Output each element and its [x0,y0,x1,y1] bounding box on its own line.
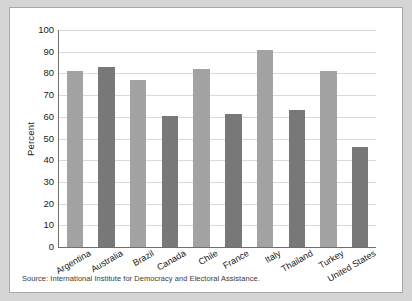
figure-outer-mat: Percent 0102030405060708090100 Argentina… [0,0,412,301]
bar [67,71,83,247]
y-axis-tick-label: 40 [43,155,54,165]
y-axis-tick-label: 70 [43,90,54,100]
x-axis-tick-label: Italy [264,249,283,265]
bars [59,30,376,247]
bar [320,71,336,247]
figure-panel: Percent 0102030405060708090100 Argentina… [9,7,403,293]
plot-area: 0102030405060708090100 [58,30,376,248]
y-axis-tick-label: 30 [43,177,54,187]
y-axis-tick-label: 50 [43,134,54,144]
bar [193,69,209,247]
x-axis-tick-label: Australia [89,249,124,274]
y-axis-tick-label: 20 [43,199,54,209]
bar [352,147,368,247]
y-axis-tick-label: 100 [38,25,54,35]
y-axis-tick-label: 60 [43,112,54,122]
bar [130,80,146,247]
y-axis-tick-label: 0 [49,242,54,252]
y-axis-title: Percent [23,30,37,248]
x-axis-tick-label: Chile [197,249,219,267]
x-axis-tick-label: Canada [156,249,188,273]
x-axis-category-labels: ArgentinaAustraliaBrazilCanadaChileFranc… [58,249,376,291]
bar [225,114,241,247]
x-axis-tick-label: France [222,249,251,271]
y-axis-tick-label: 90 [43,47,54,57]
y-axis-tick-label: 80 [43,69,54,79]
source-note: Source: International Institute for Demo… [22,274,260,283]
bar [289,110,305,247]
x-axis-tick-label: Thailand [280,249,314,274]
x-axis-tick-label: Argentina [54,249,92,276]
bar [257,50,273,247]
y-axis-tick-label: 10 [43,221,54,231]
x-axis-tick-label: Brazil [132,249,156,268]
bar [98,67,114,247]
bar [162,116,178,247]
